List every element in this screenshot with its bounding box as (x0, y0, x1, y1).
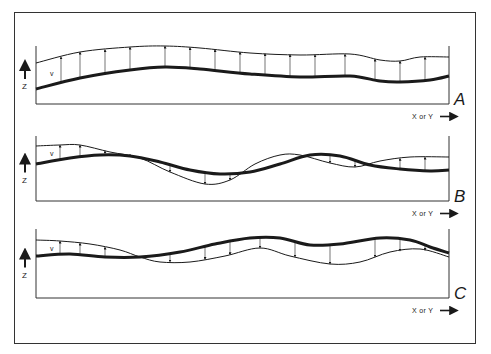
vector-label: v (50, 150, 54, 157)
z-axis-label: Z (22, 82, 27, 91)
x-axis-label: X or Y (412, 113, 433, 120)
panel-letter: A (453, 90, 465, 109)
panel-b: vZBX or Y (22, 136, 465, 217)
base-surface-line (36, 67, 449, 89)
x-axis-label: X or Y (412, 307, 433, 314)
base-surface-line (36, 154, 449, 174)
terrain-vector-diagram: vZAX or YvZBX or YvZCX or Y (0, 0, 491, 354)
panel-letter: C (454, 284, 467, 303)
panel-letter: B (454, 187, 465, 206)
vector-label: v (50, 245, 54, 252)
offset-surface-line (36, 46, 449, 63)
z-axis-label: Z (22, 271, 27, 280)
z-axis-label: Z (22, 176, 27, 185)
base-surface-line (36, 237, 449, 257)
panel-c: vZCX or Y (22, 229, 467, 314)
x-axis-label: X or Y (412, 210, 433, 217)
outer-frame (15, 13, 476, 344)
panel-a: vZAX or Y (22, 46, 465, 120)
offset-surface-line (36, 240, 449, 264)
offset-surface-line (36, 144, 449, 184)
vector-label: v (50, 70, 54, 77)
